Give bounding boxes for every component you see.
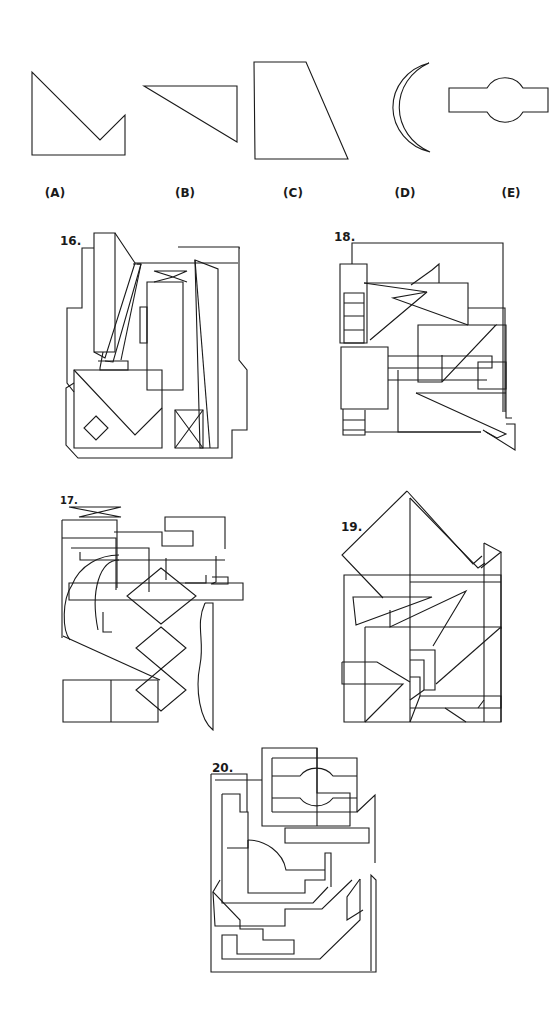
- figure-line: [198, 603, 213, 730]
- figure-line: [352, 243, 503, 412]
- figure-line: [248, 840, 325, 870]
- problem-number-16: 16.: [60, 234, 81, 248]
- problem-figure-18: [340, 243, 515, 450]
- figure-line: [343, 420, 365, 430]
- figure-line: [121, 264, 141, 360]
- figure-line: [364, 283, 468, 325]
- problem-figure-20: [211, 748, 376, 972]
- figure-line: [62, 520, 117, 588]
- figure-line: [222, 794, 248, 848]
- figure-line: [365, 627, 501, 629]
- problem-figures: [62, 233, 515, 972]
- figure-line: [178, 247, 247, 448]
- figure-line: [410, 650, 435, 690]
- figure-line: [32, 72, 125, 155]
- figure-line: [175, 410, 203, 448]
- figure-line: [248, 840, 331, 893]
- figure-line: [272, 758, 357, 812]
- figure-line: [343, 409, 365, 435]
- choice-shape-e: [449, 78, 548, 122]
- figure-line: [84, 416, 108, 440]
- figure-line: [418, 325, 496, 382]
- figure-line: [74, 370, 162, 448]
- choice-shape-c: [254, 62, 348, 159]
- figure-line: [342, 662, 410, 722]
- figure-line: [398, 370, 481, 432]
- figure-line: [353, 597, 432, 625]
- problem-figure-19: [342, 491, 501, 722]
- figure-line: [390, 591, 466, 646]
- figure-line: [94, 233, 115, 352]
- choice-label-a: (A): [45, 186, 65, 200]
- figure-line: [344, 303, 364, 330]
- figure-line: [185, 575, 206, 583]
- choice-shape-d: [393, 63, 430, 152]
- problem-figure-17: [62, 507, 243, 730]
- choice-label-b: (B): [175, 186, 195, 200]
- figure-line: [144, 86, 237, 142]
- figure-line: [95, 560, 119, 630]
- figure-line: [449, 78, 548, 122]
- figure-line: [484, 543, 501, 722]
- figure-line: [254, 62, 348, 159]
- problem-figure-16: [66, 233, 247, 458]
- figure-line: [105, 264, 141, 362]
- choice-shape-b: [144, 86, 237, 142]
- choice-label-e: (E): [501, 186, 520, 200]
- figure-line: [436, 627, 501, 684]
- figure-line: [410, 498, 485, 568]
- figure-line: [407, 491, 482, 564]
- figure-line: [114, 517, 225, 549]
- figure-line: [195, 260, 218, 448]
- figure-line: [357, 795, 375, 863]
- figure-line: [496, 325, 512, 418]
- figure-line: [136, 627, 186, 669]
- figure-line: [71, 548, 149, 592]
- figure-line: [341, 347, 388, 409]
- figure-line: [140, 307, 147, 343]
- figure-line: [64, 555, 119, 640]
- figure-line: [63, 636, 160, 680]
- problem-number-17: 17.: [60, 495, 78, 506]
- figure-line: [127, 568, 196, 624]
- answer-choice-shapes: [32, 62, 548, 159]
- figure-line: [154, 271, 187, 282]
- choice-label-d: (D): [395, 186, 416, 200]
- figure-line: [344, 293, 364, 343]
- figure-line: [410, 690, 424, 722]
- choice-shape-a: [32, 72, 125, 155]
- figure-line: [285, 828, 369, 843]
- figure-line: [100, 352, 103, 368]
- figure-line: [342, 491, 407, 598]
- figure-line: [262, 748, 350, 826]
- choice-label-c: (C): [283, 186, 303, 200]
- figure-line: [364, 283, 468, 325]
- figure-line: [272, 798, 357, 806]
- figure-line: [147, 282, 183, 390]
- figure-line: [445, 700, 484, 722]
- figure-line: [213, 879, 360, 959]
- figure-line: [416, 393, 506, 438]
- problem-number-19: 19.: [341, 520, 362, 534]
- problem-number-20: 20.: [212, 761, 233, 775]
- figure-line: [272, 768, 357, 776]
- figure-line: [393, 63, 430, 152]
- figure-line: [69, 507, 121, 517]
- figure-line: [136, 669, 186, 711]
- problem-number-18: 18.: [334, 230, 355, 244]
- figure-line: [468, 308, 505, 412]
- figure-line: [347, 879, 363, 920]
- figure-line: [388, 356, 492, 368]
- figure-line: [103, 612, 112, 632]
- page-canvas: [0, 0, 555, 1010]
